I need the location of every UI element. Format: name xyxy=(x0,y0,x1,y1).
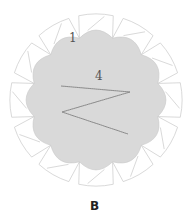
diagram: 1 4 B xyxy=(0,0,192,217)
label-outer-segment: 1 xyxy=(69,31,77,45)
panel-label: B xyxy=(90,199,99,213)
inner-region xyxy=(26,30,166,170)
label-inner-region: 4 xyxy=(95,69,103,83)
